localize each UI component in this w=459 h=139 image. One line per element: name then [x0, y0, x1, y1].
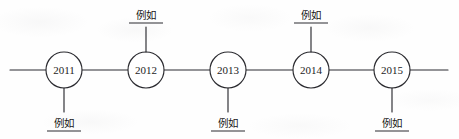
node-2012[interactable]: 2012例如	[128, 9, 164, 88]
year-node-label: 2013	[217, 64, 240, 76]
callout-2012[interactable]: 例如	[129, 9, 163, 52]
timeline-diagram: 2011例如2012例如2013例如2014例如2015例如	[0, 0, 459, 139]
callout-2011[interactable]: 例如	[47, 88, 81, 131]
year-node-label: 2011	[53, 64, 75, 76]
year-node-label: 2015	[381, 64, 404, 76]
year-node-label: 2014	[300, 64, 323, 76]
node-2014[interactable]: 2014例如	[293, 9, 329, 88]
callout-label: 例如	[301, 9, 321, 21]
callout-label: 例如	[54, 117, 74, 129]
timeline-figure: 2011例如2012例如2013例如2014例如2015例如	[0, 0, 459, 139]
node-2011[interactable]: 2011例如	[46, 52, 82, 131]
callout-label: 例如	[382, 117, 402, 129]
node-2013[interactable]: 2013例如	[210, 52, 246, 131]
callout-2013[interactable]: 例如	[211, 88, 245, 131]
callout-label: 例如	[218, 117, 238, 129]
callout-label: 例如	[136, 9, 156, 21]
callout-2014[interactable]: 例如	[294, 9, 328, 52]
year-node-label: 2012	[135, 64, 157, 76]
node-2015[interactable]: 2015例如	[374, 52, 410, 131]
callout-2015[interactable]: 例如	[375, 88, 409, 131]
